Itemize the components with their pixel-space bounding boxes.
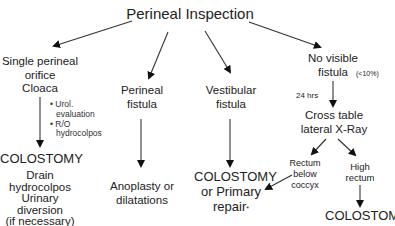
high-rectum-outcome: COLOSTOMY bbox=[325, 208, 395, 224]
no-fistula-heading: No visible fistula bbox=[303, 52, 363, 80]
no-fistula-percent: (<10%) bbox=[356, 70, 379, 78]
diagram-title: Perineal Inspection bbox=[120, 5, 260, 23]
arrow-to-perineal bbox=[149, 32, 168, 78]
high-rectum: High rectum bbox=[340, 161, 380, 184]
vestibular-outcome: COLOSTOMY or Primary repair* bbox=[194, 170, 268, 215]
arrow-to-vestibular bbox=[205, 31, 230, 72]
cloaca-outcome: COLOSTOMY bbox=[0, 151, 80, 167]
cloaca-heading: Single perineal orifice bbox=[0, 55, 80, 83]
arrow-to-cloaca bbox=[54, 21, 132, 46]
xray-test: Cross table lateral X-Ray bbox=[296, 109, 372, 137]
arrow-to-no-fistula bbox=[249, 22, 320, 47]
arrow-to-high-rectum bbox=[338, 139, 355, 155]
perineal-outcome: Anoplasty or dilatations bbox=[100, 180, 184, 208]
arrow-to-low-rectum bbox=[312, 139, 326, 154]
vestibular-heading: Vestibular fistula bbox=[196, 84, 266, 112]
wait-time: 24 hrs bbox=[296, 91, 318, 101]
cloaca-details: Drain hydrocolpos Urinary diversion (if … bbox=[0, 170, 80, 226]
cloaca-name: Cloaca bbox=[0, 82, 80, 96]
perineal-heading: Perineal fistula bbox=[110, 84, 174, 112]
rectum-below-coccyx: Rectum below coccyx bbox=[288, 158, 322, 190]
cloaca-notes: • Urol. evaluation • R/O hydrocolpos bbox=[50, 100, 102, 139]
footnote-mark: * bbox=[246, 205, 249, 212]
